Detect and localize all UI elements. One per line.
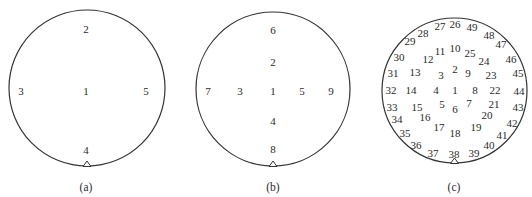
point-label: 25 — [465, 47, 477, 59]
panel-caption: (b) — [266, 181, 280, 194]
point-label: 26 — [450, 18, 462, 30]
point-label: 17 — [434, 121, 446, 133]
point-label: 14 — [406, 84, 418, 96]
point-label: 2 — [83, 23, 89, 35]
point-label: 41 — [497, 129, 508, 141]
point-label: 20 — [482, 109, 494, 121]
point-label: 46 — [506, 53, 518, 65]
point-label: 35 — [400, 127, 412, 139]
point-label: 12 — [423, 53, 434, 65]
point-label: 3 — [18, 85, 24, 97]
point-label: 45 — [513, 67, 525, 79]
point-label: 33 — [387, 101, 399, 113]
point-label: 9 — [465, 67, 471, 79]
point-label: 6 — [452, 103, 458, 115]
point-label: 32 — [386, 84, 397, 96]
point-label: 10 — [450, 42, 462, 54]
point-label: 2 — [270, 56, 276, 68]
point-label: 6 — [270, 24, 276, 36]
point-label: 40 — [484, 139, 496, 151]
point-label: 38 — [449, 148, 461, 160]
point-label: 28 — [418, 27, 430, 39]
point-label: 5 — [143, 85, 149, 97]
point-label: 7 — [466, 97, 472, 109]
point-label: 16 — [420, 111, 432, 123]
point-label: 2 — [452, 63, 458, 75]
reference-triangle-icon — [269, 161, 277, 167]
point-label: 7 — [205, 85, 211, 97]
point-label: 4 — [433, 84, 439, 96]
point-label: 11 — [435, 45, 446, 57]
point-label: 1 — [270, 85, 276, 97]
panel-a: 23154(a) — [9, 10, 165, 194]
point-label: 3 — [438, 69, 444, 81]
point-label: 48 — [484, 29, 496, 41]
point-label: 44 — [514, 85, 526, 97]
point-label: 8 — [472, 84, 478, 96]
panel-caption: (c) — [448, 181, 461, 194]
point-label: 29 — [405, 35, 417, 47]
measurement-points-diagram: 23154(a) 627315948(b) 272649284829471110… — [0, 0, 532, 197]
point-label: 8 — [270, 143, 276, 155]
point-label: 27 — [435, 20, 447, 32]
point-label: 34 — [392, 113, 404, 125]
panel-caption: (a) — [80, 181, 93, 194]
point-label: 4 — [83, 144, 89, 156]
point-label: 1 — [83, 85, 89, 97]
point-label: 19 — [471, 121, 483, 133]
point-label: 37 — [428, 147, 440, 159]
point-label: 24 — [479, 55, 491, 67]
point-label: 18 — [450, 127, 462, 139]
point-label: 30 — [394, 51, 406, 63]
point-label: 9 — [328, 85, 334, 97]
point-label: 39 — [469, 147, 481, 159]
point-label: 13 — [410, 66, 422, 78]
panel-b: 627315948(b) — [196, 12, 350, 194]
point-label: 36 — [411, 139, 423, 151]
point-label: 4 — [270, 115, 276, 127]
reference-triangle-icon — [83, 161, 91, 167]
panel-c: 2726492848294711102530122446231133923453… — [382, 18, 527, 194]
point-label: 5 — [299, 85, 305, 97]
point-label: 43 — [513, 101, 525, 113]
point-label: 42 — [507, 117, 518, 129]
point-label: 1 — [452, 84, 458, 96]
point-label: 23 — [486, 69, 498, 81]
point-label: 47 — [496, 38, 508, 50]
point-label: 31 — [388, 67, 399, 79]
point-label: 3 — [237, 85, 243, 97]
point-label: 49 — [467, 21, 479, 33]
point-label: 5 — [439, 98, 445, 110]
point-label: 22 — [490, 84, 501, 96]
